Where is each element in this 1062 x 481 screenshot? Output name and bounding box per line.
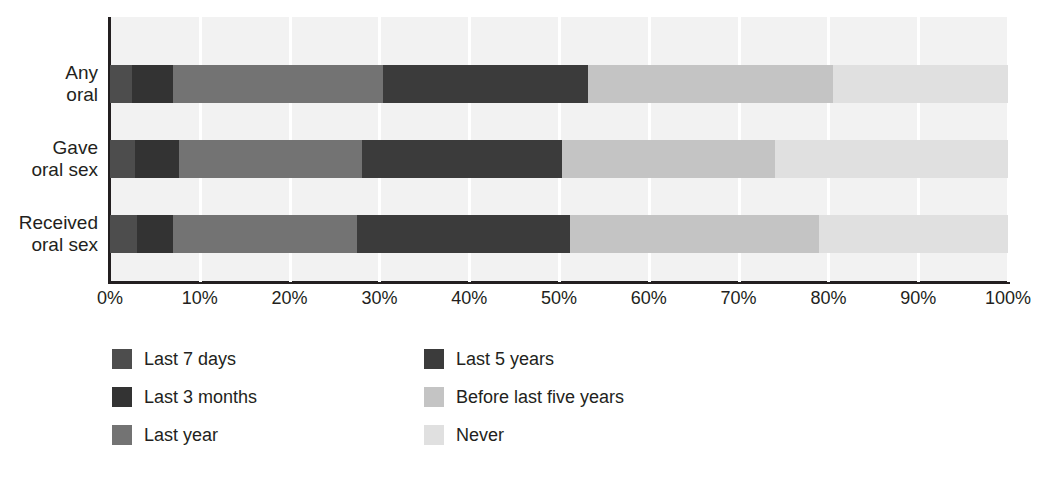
category-label-line: oral sex [0, 234, 98, 256]
bar-received-oral-sex [110, 215, 1008, 253]
category-label: Gaveoral sex [0, 137, 98, 181]
legend-item[interactable]: Before last five years [424, 387, 736, 408]
category-label: Receivedoral sex [0, 212, 98, 256]
x-tick-label: 50% [527, 288, 591, 309]
chart-legend: Last 7 daysLast 5 yearsLast 3 monthsBefo… [112, 340, 812, 454]
legend-swatch-icon [424, 387, 444, 407]
legend-item[interactable]: Never [424, 425, 736, 446]
stacked-bar-chart: AnyoralGaveoral sexReceivedoral sex 0%10… [0, 0, 1062, 481]
bar-segment [110, 215, 137, 253]
bar-segment [179, 140, 362, 178]
bar-segment [173, 215, 357, 253]
bar-segment [110, 65, 132, 103]
bar-segment [110, 140, 135, 178]
bar-segment [357, 215, 570, 253]
bar-any-oral [110, 65, 1008, 103]
legend-label: Last year [144, 425, 218, 446]
bar-segment [132, 65, 172, 103]
x-tick-label: 10% [168, 288, 232, 309]
bar-segment [588, 65, 833, 103]
bar-segment [383, 65, 588, 103]
legend-label: Never [456, 425, 504, 446]
x-tick-label: 0% [78, 288, 142, 309]
legend-item[interactable]: Last 5 years [424, 349, 736, 370]
legend-label: Before last five years [456, 387, 624, 408]
bar-segment [775, 140, 1008, 178]
legend-item[interactable]: Last 3 months [112, 387, 424, 408]
x-tick-label: 60% [617, 288, 681, 309]
legend-item[interactable]: Last 7 days [112, 349, 424, 370]
category-label-line: oral [0, 84, 98, 106]
category-label-line: Any [0, 62, 98, 84]
bar-segment [173, 65, 383, 103]
legend-swatch-icon [424, 349, 444, 369]
x-tick-label: 40% [437, 288, 501, 309]
bar-gave-oral-sex [110, 140, 1008, 178]
bar-segment [562, 140, 776, 178]
legend-label: Last 7 days [144, 349, 236, 370]
bar-segment [570, 215, 820, 253]
bar-segment [819, 215, 1008, 253]
legend-label: Last 5 years [456, 349, 554, 370]
legend-item[interactable]: Last year [112, 425, 424, 446]
legend-label: Last 3 months [144, 387, 257, 408]
x-tick-label: 20% [258, 288, 322, 309]
category-label-line: oral sex [0, 159, 98, 181]
legend-swatch-icon [424, 425, 444, 445]
legend-swatch-icon [112, 349, 132, 369]
bar-segment [362, 140, 561, 178]
legend-swatch-icon [112, 425, 132, 445]
category-label: Anyoral [0, 62, 98, 106]
bar-segment [135, 140, 179, 178]
legend-swatch-icon [112, 387, 132, 407]
category-label-line: Received [0, 212, 98, 234]
x-tick-label: 70% [707, 288, 771, 309]
x-tick-label: 30% [347, 288, 411, 309]
x-tick-label: 90% [886, 288, 950, 309]
x-tick-label: 100% [976, 288, 1040, 309]
bar-segment [833, 65, 1008, 103]
x-tick-label: 80% [796, 288, 860, 309]
bar-segment [137, 215, 173, 253]
category-label-line: Gave [0, 137, 98, 159]
